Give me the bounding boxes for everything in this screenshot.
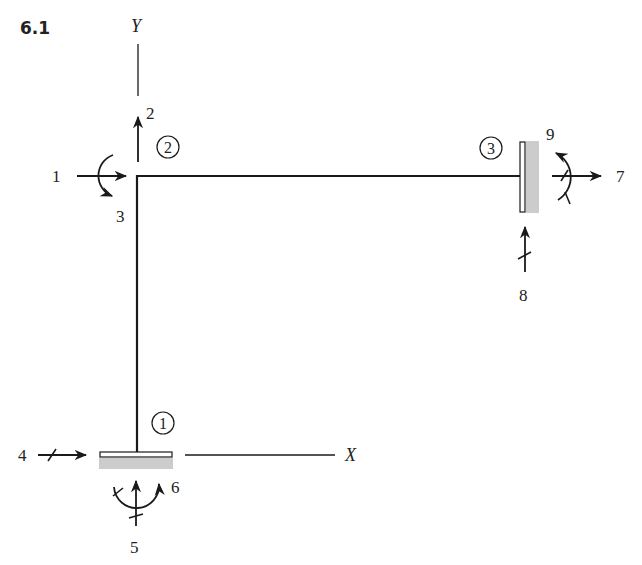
x-axis-label: X (344, 445, 357, 465)
node-marker-3: 3 (480, 137, 502, 159)
dof-2-label: 2 (146, 104, 155, 123)
svg-text:2: 2 (164, 139, 172, 156)
dof-4-label: 4 (18, 446, 27, 465)
dof-8-label: 8 (519, 286, 528, 305)
dof-8-restrained-arrow-icon (518, 227, 531, 272)
fixed-support-node-1 (99, 452, 173, 469)
dof-5-restrained-arrow-icon (129, 481, 143, 526)
node-marker-2: 2 (157, 136, 179, 158)
y-axis: Y (131, 16, 143, 96)
dof-6-label: 6 (171, 478, 180, 497)
dof-7-restrained-arrow-icon (552, 170, 601, 181)
dof-4-restrained-arrow-icon (38, 449, 86, 461)
node-marker-1: 1 (152, 412, 174, 434)
svg-text:1: 1 (159, 415, 167, 432)
y-axis-label: Y (131, 16, 143, 36)
svg-text:3: 3 (487, 140, 495, 157)
dof-5-label: 5 (130, 538, 139, 557)
dof-9-label: 9 (546, 125, 555, 144)
frame-diagram: 6.1 Y X 1 2 3 1 2 (0, 0, 642, 565)
x-axis: X (185, 445, 357, 465)
fixed-support-node-3 (520, 141, 539, 213)
dof-3-label: 3 (116, 207, 125, 226)
dof-1-label: 1 (52, 167, 61, 186)
dof-7-label: 7 (616, 167, 625, 186)
frame-members (136, 175, 520, 453)
figure-number: 6.1 (20, 18, 50, 38)
